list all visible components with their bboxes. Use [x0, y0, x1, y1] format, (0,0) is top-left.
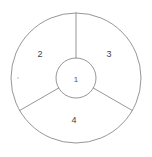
sector-diagram-canvas: 2 3 4 1 — [0, 0, 152, 157]
spoke-lower-left — [20, 88, 59, 111]
sector-label-3: 3 — [106, 49, 111, 59]
spoke-lower-right — [93, 88, 132, 111]
sector-label-2: 2 — [37, 49, 42, 59]
paper-speck — [17, 77, 19, 79]
wheel-diagram: 2 3 4 1 — [0, 0, 152, 157]
sector-label-4: 4 — [71, 115, 76, 125]
hub-label-1: 1 — [74, 75, 79, 84]
